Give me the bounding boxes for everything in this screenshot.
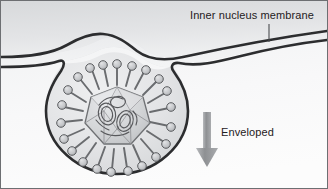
enveloped-label: Enveloped bbox=[221, 126, 274, 138]
diagram-canvas bbox=[1, 1, 327, 188]
inner-nucleus-membrane-label: Inner nucleus membrane bbox=[190, 9, 314, 21]
virus-budding-diagram: Inner nucleus membrane Enveloped bbox=[0, 0, 328, 189]
